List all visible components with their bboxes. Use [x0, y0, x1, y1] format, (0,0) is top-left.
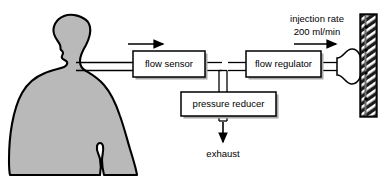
tube-regulator-to-nozzle	[322, 63, 337, 71]
wall-dot	[364, 48, 367, 51]
pressure-reducer-component[interactable]: pressure reducer	[181, 92, 279, 119]
nozzle	[337, 49, 362, 84]
patient-silhouette	[9, 15, 137, 175]
wall-hatching	[362, 16, 376, 116]
nozzle-shape	[337, 49, 362, 84]
injection-rate-line1: injection rate	[290, 13, 344, 24]
exhaust-label: exhaust	[206, 148, 240, 159]
flow-regulator-label: flow regulator	[255, 58, 312, 69]
patient-body-outline	[9, 15, 137, 175]
tube-junction-to-regulator	[228, 63, 246, 71]
flow-sensor-label: flow sensor	[145, 58, 193, 69]
flow-sensor-component[interactable]: flow sensor	[133, 51, 208, 80]
diagram-canvas: flow sensor flow regulator pressure redu…	[0, 0, 385, 190]
wall	[360, 14, 377, 117]
tube-sensor-to-junction	[206, 63, 222, 71]
tube-junction-to-reducer	[219, 71, 227, 93]
wall-dot	[364, 25, 367, 28]
wall-dot	[364, 71, 367, 74]
injection-rate-annotation: injection rate 200 ml/min	[290, 13, 344, 37]
pressure-reducer-label: pressure reducer	[193, 98, 265, 109]
injection-rate-line2: 200 ml/min	[294, 26, 340, 37]
wall-dot	[364, 97, 367, 100]
schematic-diagram: flow sensor flow regulator pressure redu…	[0, 0, 385, 190]
flow-regulator-component[interactable]: flow regulator	[246, 51, 324, 80]
